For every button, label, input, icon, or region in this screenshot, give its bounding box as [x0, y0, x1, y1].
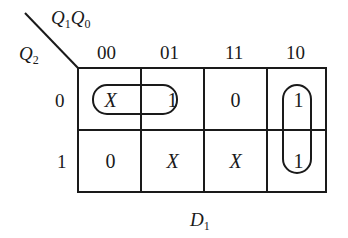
row-header-0: 0	[55, 91, 65, 110]
col-header-00: 00	[97, 43, 116, 62]
column-variables-label: Q1Q0	[51, 8, 90, 30]
cell-r0-c00: X	[79, 69, 142, 132]
cell-r1-c00: 0	[79, 130, 142, 193]
cell-r1-c01: X	[141, 130, 204, 193]
cell-r0-c11: 0	[204, 69, 267, 132]
cell-r1-c11: X	[204, 130, 267, 193]
row-variable-label: Q2	[19, 44, 39, 66]
row-header-1: 1	[57, 152, 67, 171]
col-header-11: 11	[225, 43, 243, 62]
cell-r0-c10: 1	[267, 69, 330, 132]
cell-r1-c10: 1	[267, 130, 330, 193]
cell-r0-c01: 1	[141, 69, 204, 132]
col-header-10: 10	[286, 43, 305, 62]
kmap-grid: X 1 0 1 0 X X 1	[77, 67, 327, 193]
function-label: D1	[190, 210, 210, 232]
col-header-01: 01	[160, 43, 179, 62]
